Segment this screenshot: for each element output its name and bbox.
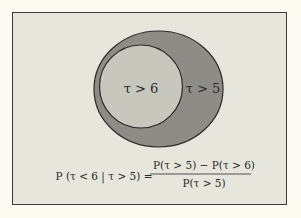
inner-set-label: τ > 6 [124, 81, 159, 96]
formula-denominator: P(τ > 5) [182, 177, 225, 189]
formula-lhs: P (τ < 6 | τ > 5) = [56, 170, 153, 184]
outer-set-label: τ > 5 [186, 81, 221, 96]
formula-numerator: P(τ > 5) − P(τ > 6) [153, 159, 255, 171]
venn-diagram: τ > 6 τ > 5 P (τ < 6 | τ > 5) = P(τ > 5)… [0, 0, 301, 218]
